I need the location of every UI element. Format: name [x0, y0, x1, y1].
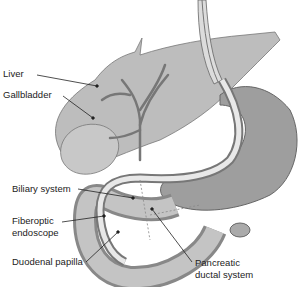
label-fiberoptic-endoscope-1: Fiberoptic: [12, 215, 54, 226]
vessel-shape: [230, 223, 250, 237]
label-biliary-system: Biliary system: [12, 183, 71, 194]
label-duodenal-papilla: Duodenal papilla: [12, 256, 83, 267]
anatomy-illustration: [0, 0, 306, 287]
label-fiberoptic-endoscope-2: endoscope: [12, 227, 58, 238]
label-gallbladder: Gallbladder: [3, 89, 52, 100]
label-liver: Liver: [3, 68, 24, 79]
label-pancreatic-ductal-1: Pancreatic: [195, 257, 240, 268]
label-pancreatic-ductal-2: ductal system: [195, 269, 253, 280]
